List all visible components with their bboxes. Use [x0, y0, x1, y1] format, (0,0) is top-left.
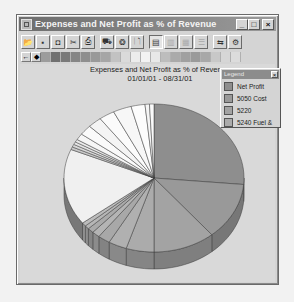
save-icon: ▪	[42, 38, 45, 47]
palette-fill-button[interactable]: ◆	[31, 52, 41, 62]
cut-icon: ✂	[70, 38, 77, 47]
palette-color-swatch[interactable]	[61, 52, 71, 62]
legend-window[interactable]: Legend × Net Profit5050 Cost52205240 Fue…	[220, 68, 281, 128]
save-button[interactable]: ▪	[36, 35, 50, 49]
legend-label: 5240 Fuel &	[237, 119, 272, 126]
layout-button[interactable]: ▤	[149, 35, 163, 49]
legend-swatch	[224, 82, 233, 91]
pie-top-faces	[64, 104, 244, 252]
chart-area: Expenses and Net Profit as % of Revenue …	[20, 64, 275, 282]
cut-button[interactable]: ✂	[66, 35, 80, 49]
palette-color-swatch[interactable]	[221, 52, 231, 62]
print-icon: ⎙	[85, 37, 91, 47]
palette-color-swatch[interactable]	[121, 52, 131, 62]
legend-title-bar[interactable]: Legend ×	[222, 70, 279, 79]
legend-label: Net Profit	[237, 83, 264, 90]
tools-button[interactable]: ⚙	[228, 35, 242, 49]
palette-color-swatch[interactable]	[41, 52, 51, 62]
print-preview-button[interactable]: 🗋	[130, 35, 144, 49]
palette-color-swatch[interactable]	[131, 52, 141, 62]
palette-color-swatch[interactable]	[191, 52, 201, 62]
legend-items: Net Profit5050 Cost52205240 Fuel &	[221, 80, 280, 128]
camera-icon: ◘	[56, 38, 61, 47]
chart-subtitle: 01/01/01 - 08/31/01	[80, 74, 240, 83]
app-icon[interactable]	[21, 19, 32, 30]
palette-color-swatch[interactable]	[71, 52, 81, 62]
title-bar[interactable]: Expenses and Net Profit as % of Revenue …	[19, 17, 276, 31]
pie-slice-side	[83, 223, 86, 243]
legend-swatch	[224, 106, 233, 115]
columns-button[interactable]: ▦	[179, 35, 193, 49]
rows-icon: ☰	[198, 38, 205, 47]
minimize-button[interactable]: _	[236, 19, 248, 30]
legend-item[interactable]: 5220	[224, 104, 280, 116]
palette-color-swatch[interactable]	[111, 52, 121, 62]
print-preview-icon: 🗋	[134, 35, 140, 49]
layout-icon: ▤	[152, 38, 160, 47]
palette-color-swatch[interactable]	[51, 52, 61, 62]
palette-color-swatch[interactable]	[211, 52, 221, 62]
palette-color-swatch[interactable]	[101, 52, 111, 62]
columns-icon: ▦	[182, 38, 190, 47]
palette-color-swatch[interactable]	[161, 52, 171, 62]
palette-color-swatch[interactable]	[171, 52, 181, 62]
open-icon: 📂	[23, 38, 33, 47]
legend-close-button[interactable]: ×	[271, 71, 278, 78]
palette-color-swatch[interactable]	[91, 52, 101, 62]
window-title: Expenses and Net Profit as % of Revenue	[35, 19, 216, 29]
legend-swatch	[224, 118, 233, 127]
maximize-button[interactable]: □	[248, 19, 260, 30]
palette-color-swatch[interactable]	[141, 52, 151, 62]
color-icon: ❂	[119, 38, 126, 47]
data-editor-icon: ⇆	[217, 38, 224, 47]
grid-button[interactable]: ▥	[164, 35, 178, 49]
palette-color-swatch[interactable]	[181, 52, 191, 62]
palette-color-swatch[interactable]	[151, 52, 161, 62]
pie-slice-side	[85, 226, 88, 246]
open-button[interactable]: 📂	[21, 35, 35, 49]
chart-window: Expenses and Net Profit as % of Revenue …	[16, 14, 279, 285]
camera-button[interactable]: ◘	[51, 35, 65, 49]
legend-label: 5220	[237, 107, 251, 114]
gallery-button[interactable]: ⛟	[100, 35, 114, 49]
palette-scroll-left-button[interactable]: ←	[21, 52, 31, 62]
legend-label: 5050 Cost	[237, 95, 267, 102]
legend-item[interactable]: 5050 Cost	[224, 92, 280, 104]
close-button[interactable]: ×	[262, 19, 274, 30]
color-button[interactable]: ❂	[115, 35, 129, 49]
color-palette: ←◆	[21, 52, 241, 62]
palette-color-swatch[interactable]	[201, 52, 211, 62]
palette-color-swatch[interactable]	[81, 52, 91, 62]
legend-item[interactable]: 5240 Fuel &	[224, 116, 280, 128]
data-editor-button[interactable]: ⇆	[213, 35, 227, 49]
window-controls: _ □ ×	[236, 19, 274, 30]
gallery-icon: ⛟	[102, 37, 112, 47]
tools-icon: ⚙	[232, 38, 239, 47]
grid-icon: ▥	[167, 38, 175, 47]
chart-title: Expenses and Net Profit as % of Revenue	[80, 65, 240, 74]
legend-item[interactable]: Net Profit	[224, 80, 280, 92]
legend-swatch	[224, 94, 233, 103]
rows-button[interactable]: ☰	[194, 35, 208, 49]
toolbar: 📂▪◘✂⎙⛟❂🗋▤▥▦☰⇆⚙	[21, 34, 243, 50]
palette-color-swatch[interactable]	[231, 52, 241, 62]
print-button[interactable]: ⎙	[81, 35, 95, 49]
legend-title: Legend	[224, 70, 244, 79]
